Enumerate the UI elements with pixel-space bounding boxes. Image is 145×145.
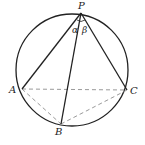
angle-arc bbox=[77, 20, 85, 22]
angle-label-alpha: α bbox=[72, 25, 78, 35]
dashed-segment-ab bbox=[22, 89, 61, 124]
point-label-b: B bbox=[54, 126, 62, 137]
point-label-a: A bbox=[8, 84, 16, 95]
dashed-segment-bc bbox=[61, 90, 127, 124]
geometry-diagram: P A B C α β bbox=[0, 0, 145, 145]
dashed-segment-ac bbox=[22, 89, 127, 90]
point-label-c: C bbox=[130, 85, 138, 96]
angle-label-beta: β bbox=[81, 25, 87, 35]
point-label-p: P bbox=[77, 0, 85, 11]
